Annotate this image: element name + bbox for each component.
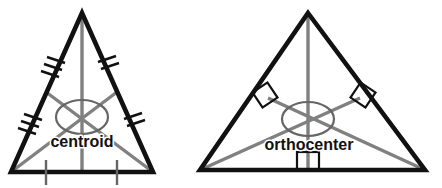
tick-marks-lower-left (18, 114, 42, 134)
centroid-panel: centroid (11, 13, 153, 185)
centroid-label: centroid (50, 133, 113, 150)
triangle-centers-diagram: centroid orthocenter (0, 0, 442, 188)
geometry-figure: centroid orthocenter (0, 0, 442, 188)
orthocenter-panel: orthocenter (200, 13, 425, 170)
altitude-from-bottom-right (268, 98, 425, 170)
orthocenter-label: orthocenter (265, 136, 354, 153)
